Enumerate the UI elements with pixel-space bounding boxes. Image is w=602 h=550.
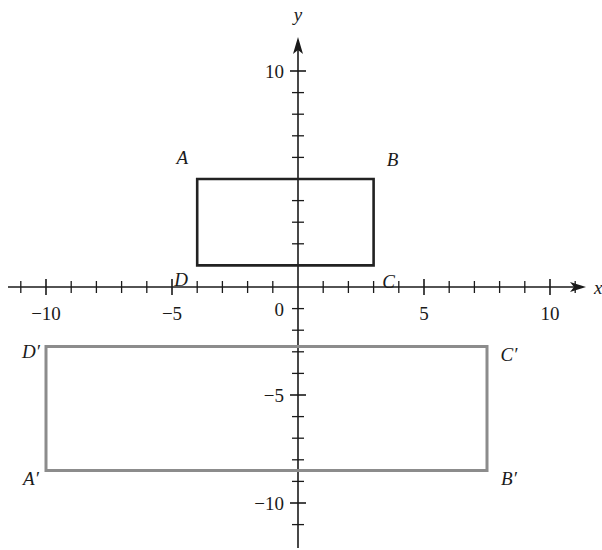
y-tick-label: −10 — [254, 493, 284, 514]
vertex-label: A′ — [21, 468, 40, 489]
coordinate-plane-figure: x y −10−5051010−5−10 ABCDA′B′C′D′ — [0, 0, 602, 550]
y-tick-label: 10 — [265, 61, 284, 82]
vertex-label: A — [174, 147, 188, 168]
vertex-labels: ABCDA′B′C′D′ — [21, 147, 518, 489]
y-tick-label: −5 — [264, 385, 284, 406]
vertex-label: C — [382, 271, 395, 292]
vertex-label: D — [173, 269, 188, 290]
rectangles — [46, 179, 487, 471]
x-tick-label: 0 — [275, 299, 285, 320]
vertex-label: B — [387, 149, 399, 170]
x-tick-label: −5 — [162, 303, 182, 324]
coordinate-plane: x y −10−5051010−5−10 ABCDA′B′C′D′ — [0, 0, 602, 550]
x-tick-label: −10 — [31, 303, 61, 324]
axes: x y — [8, 4, 602, 548]
rectangle-a-prime-b-prime-c-prime-d-prime — [46, 346, 487, 470]
x-tick-label: 5 — [419, 303, 429, 324]
vertex-label: D′ — [21, 341, 41, 362]
vertex-label: B′ — [501, 468, 518, 489]
vertex-label: C′ — [501, 344, 519, 365]
y-axis-label: y — [292, 4, 303, 25]
x-axis-label: x — [593, 277, 602, 298]
x-tick-label: 10 — [541, 303, 560, 324]
rectangle-abcd — [197, 179, 373, 265]
